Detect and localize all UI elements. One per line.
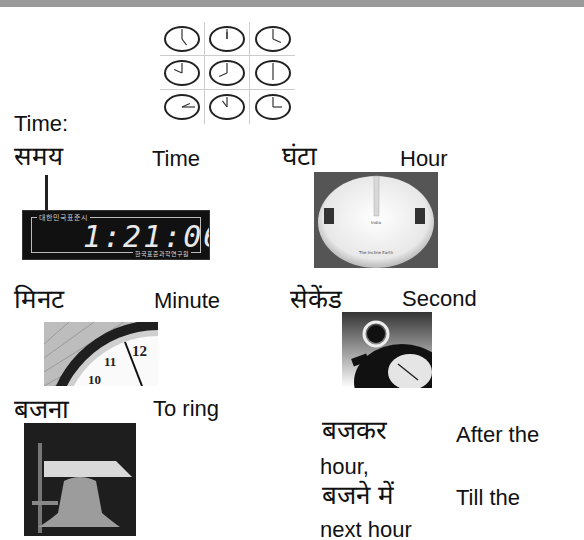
antenna-icon <box>45 175 48 211</box>
analog-clock-icon <box>205 56 250 90</box>
clock-number-11: 11 <box>104 354 116 369</box>
clock-number-10: 10 <box>88 372 101 386</box>
hindi-word-second: सेकेंड <box>290 280 342 316</box>
hindi-word-to-ring: बजना <box>14 390 69 426</box>
minute-clock-image: 12 11 10 <box>44 322 158 386</box>
bell-image <box>24 423 136 536</box>
english-word-second: Second <box>402 286 477 312</box>
analog-clock-icon <box>250 56 295 90</box>
hour-globe-image: India The Incline Earth <box>314 172 438 268</box>
analog-clock-icon <box>160 22 205 56</box>
globe-bottom-label: The Incline Earth <box>358 250 393 255</box>
clock-grid-image <box>160 22 295 124</box>
intro-label: Time: <box>14 111 68 137</box>
analog-clock-icon <box>250 22 295 56</box>
analog-clock-icon <box>250 90 295 124</box>
digital-clock-brand: 한국표준과학연구원 <box>133 249 191 258</box>
english-phrase-after-hour: After the hour, <box>320 419 582 483</box>
analog-clock-icon <box>160 90 205 124</box>
hindi-word-minute: मिनट <box>14 280 64 316</box>
english-word-hour: Hour <box>400 146 448 172</box>
digital-clock-image: 대한민국표준시 1:21:06 한국표준과학연구원 <box>22 210 210 260</box>
english-word-to-ring: To ring <box>153 396 219 422</box>
stopwatch-image <box>342 312 432 388</box>
hindi-word-hour: घंटा <box>282 137 317 173</box>
english-word-time: Time <box>152 146 200 172</box>
analog-clock-icon <box>205 22 250 56</box>
hindi-word-time: समय <box>14 137 63 173</box>
globe-center-label: India <box>371 220 381 225</box>
english-phrase-till-next-hour: Till the next hour <box>320 482 550 540</box>
english-word-minute: Minute <box>154 288 220 314</box>
clock-number-12: 12 <box>132 343 147 359</box>
analog-clock-icon <box>205 90 250 124</box>
top-bar <box>0 0 584 7</box>
analog-clock-icon <box>160 56 205 90</box>
